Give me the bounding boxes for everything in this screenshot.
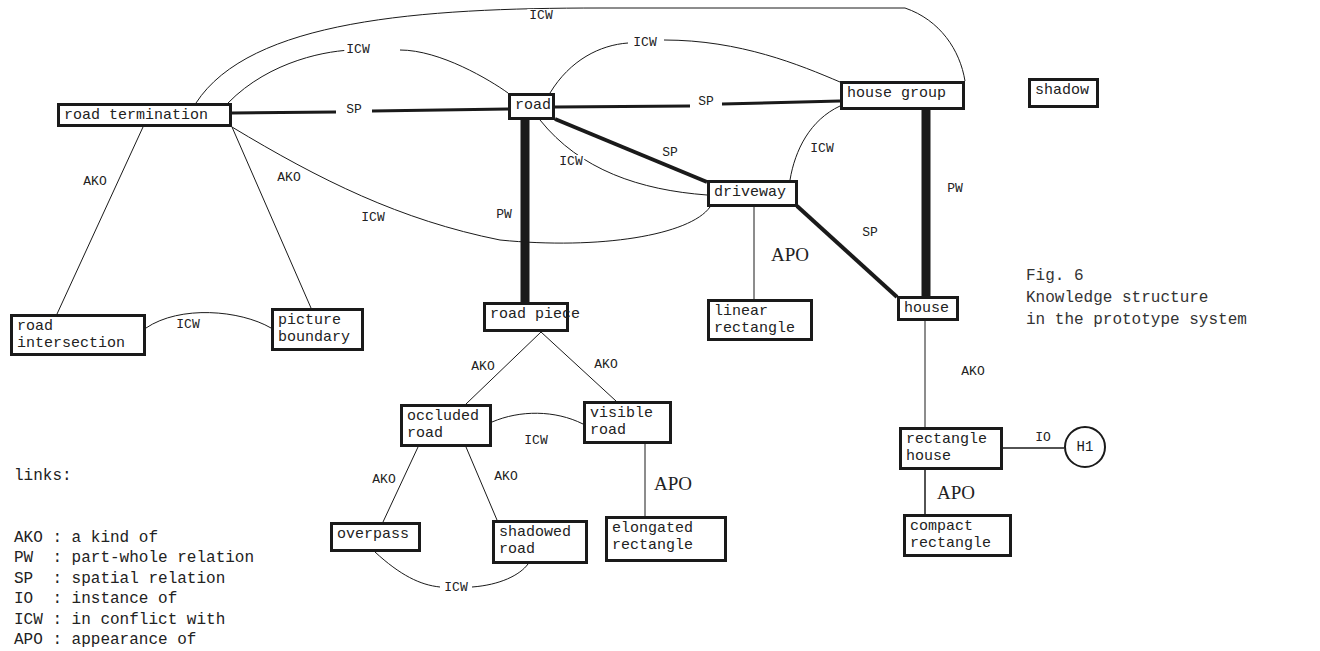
- edge-label-icw: ICW: [359, 211, 386, 225]
- legend-item-ako: AKO : a kind of: [14, 528, 254, 549]
- legend-description: spatial relation: [72, 570, 226, 588]
- edge-sp-driveway-to-house: [797, 206, 897, 297]
- node-overpass: overpass: [330, 522, 421, 552]
- figure-number: Fig. 6: [1026, 265, 1247, 287]
- legend-rows: AKO : a kind ofPW : part-whole relationS…: [14, 528, 254, 651]
- edge-label-ako: AKO: [492, 470, 519, 484]
- edge-icw-road-termination-to-road: [228, 50, 508, 103]
- legend-separator: :: [52, 570, 71, 588]
- node-house: house: [897, 296, 959, 321]
- node-road-intersection: road intersection: [10, 314, 146, 356]
- legend-description: instance of: [72, 590, 178, 608]
- edge-label-ako: AKO: [370, 473, 397, 487]
- edge-label-sp: SP: [344, 103, 364, 117]
- edge-icw-occluded-road-to-visible-road: [492, 413, 583, 424]
- legend-separator: :: [52, 590, 71, 608]
- edge-label-icw: ICW: [344, 43, 371, 57]
- edge-ako-road-termination-to-picture-boundary: [232, 127, 311, 308]
- node-compact-rectangle: compact rectangle: [903, 514, 1012, 557]
- edge-label-sp: SP: [696, 95, 716, 109]
- legend-title: links:: [14, 466, 254, 487]
- figure-caption-line-1: Knowledge structure: [1026, 287, 1247, 309]
- legend-description: appearance of: [72, 631, 197, 649]
- edge-icw-road-termination-to-driveway: [232, 127, 710, 243]
- edge-label-ako: AKO: [469, 360, 496, 374]
- edge-label-apo: APO: [652, 474, 694, 494]
- edge-ako-road-termination-to-road-intersection: [57, 127, 143, 314]
- node-rectangle-house: rectangle house: [899, 427, 1003, 470]
- node-visible-road: visible road: [583, 401, 672, 444]
- node-shadowed-road: shadowed road: [492, 520, 588, 564]
- legend-description: part-whole relation: [72, 549, 254, 567]
- node-elongated-rectangle: elongated rectangle: [605, 516, 727, 562]
- legend-item-sp: SP : spatial relation: [14, 569, 254, 590]
- legend-item-pw: PW : part-whole relation: [14, 548, 254, 569]
- node-picture-boundary: picture boundary: [271, 308, 364, 351]
- edge-label-icw: ICW: [442, 581, 469, 595]
- instance-node-h1: H1: [1064, 426, 1106, 468]
- node-linear-rectangle: linear rectangle: [707, 299, 813, 341]
- legend-separator: :: [52, 611, 71, 629]
- edge-label-ako: AKO: [592, 358, 619, 372]
- legend-separator: :: [52, 631, 71, 649]
- node-shadow: shadow: [1028, 78, 1099, 108]
- edge-label-ako: AKO: [81, 175, 108, 189]
- edge-icw-road-intersection-to-picture-boundary: [146, 313, 271, 328]
- node-road-piece: road piece: [483, 302, 569, 332]
- edge-label-icw: ICW: [522, 434, 549, 448]
- edge-label-io: IO: [1033, 431, 1053, 445]
- legend-item-io: IO : instance of: [14, 589, 254, 610]
- edge-label-icw: ICW: [808, 142, 835, 156]
- legend-separator: :: [52, 529, 71, 547]
- legend-abbr: ICW: [14, 611, 52, 629]
- edge-label-sp: SP: [660, 146, 680, 160]
- node-road: road: [508, 93, 555, 120]
- node-occluded-road: occluded road: [400, 404, 492, 447]
- legend-item-icw: ICW : in conflict with: [14, 610, 254, 631]
- edge-label-pw: PW: [945, 182, 965, 196]
- node-driveway: driveway: [707, 180, 798, 207]
- edge-label-apo: APO: [935, 483, 977, 503]
- edge-label-icw: ICW: [527, 9, 554, 23]
- figure-caption-line-2: in the prototype system: [1026, 309, 1247, 331]
- edge-sp-road-termination-to-road: [232, 109, 508, 113]
- node-road-termination: road termination: [57, 103, 232, 127]
- figure-caption: Fig. 6 Knowledge structure in the protot…: [1026, 265, 1247, 331]
- edge-icw-road-to-house-group: [550, 40, 840, 93]
- legend-item-apo: APO : appearance of: [14, 630, 254, 651]
- edge-label-icw: ICW: [631, 36, 658, 50]
- edge-label-ako: AKO: [275, 171, 302, 185]
- legend-description: in conflict with: [72, 611, 226, 629]
- legend-abbr: PW: [14, 549, 52, 567]
- legend-abbr: SP: [14, 570, 52, 588]
- legend-separator: :: [52, 549, 71, 567]
- link-legend: links: AKO : a kind ofPW : part-whole re…: [14, 425, 254, 651]
- edge-label-pw: PW: [494, 208, 514, 222]
- legend-abbr: AKO: [14, 529, 52, 547]
- edge-label-icw: ICW: [174, 318, 201, 332]
- legend-description: a kind of: [72, 529, 158, 547]
- edge-label-ako: AKO: [959, 365, 986, 379]
- edge-label-icw: ICW: [557, 155, 584, 169]
- node-house-group: house group: [840, 81, 965, 110]
- edge-label-apo: APO: [769, 245, 811, 265]
- legend-abbr: IO: [14, 590, 52, 608]
- legend-abbr: APO: [14, 631, 52, 649]
- edge-sp-road-to-driveway: [555, 119, 707, 182]
- edge-label-sp: SP: [860, 226, 880, 240]
